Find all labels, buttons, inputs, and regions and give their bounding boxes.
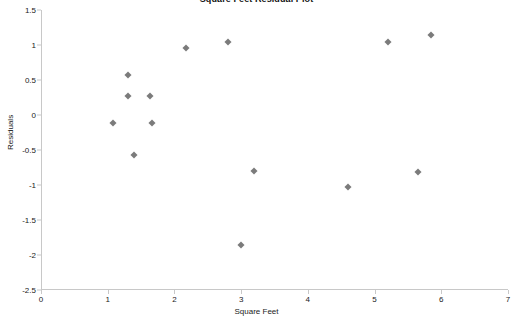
y-tick-label: -1.5 [22,216,36,225]
data-point [224,38,231,45]
y-tick-mark [37,150,41,151]
x-tick-label: 5 [372,295,376,304]
x-tick-label: 2 [172,295,176,304]
y-axis-line [41,10,42,290]
data-point [183,44,190,51]
x-tick-mark [174,290,175,294]
y-tick-label: 1.5 [25,6,36,15]
y-tick-mark [37,220,41,221]
data-point [124,93,131,100]
x-tick-mark [508,290,509,294]
y-tick-label: -2 [29,251,36,260]
data-point [124,72,131,79]
data-point [384,38,391,45]
y-axis-title: Residuals [6,115,15,150]
data-point [146,93,153,100]
y-tick-mark [37,45,41,46]
y-tick-mark [37,115,41,116]
x-tick-label: 4 [306,295,310,304]
data-point [238,241,245,248]
x-axis-title: Square Feet [0,307,513,316]
data-point [110,119,117,126]
data-point [149,119,156,126]
y-tick-mark [37,80,41,81]
y-tick-label: -1 [29,181,36,190]
x-tick-label: 6 [439,295,443,304]
x-tick-mark [441,290,442,294]
y-tick-label: 1 [32,41,36,50]
data-point [414,169,421,176]
x-tick-label: 7 [506,295,510,304]
y-tick-mark [37,185,41,186]
residual-plot-chart: Square Feet Residual Plot 1.510.50-0.5-1… [0,0,513,321]
plot-area: 1.510.50-0.5-1-1.5-2-2.5 01234567 [41,10,508,290]
x-tick-label: 3 [239,295,243,304]
x-tick-mark [241,290,242,294]
y-tick-label: -0.5 [22,146,36,155]
x-tick-mark [375,290,376,294]
data-point [131,151,138,158]
y-tick-label: -2.5 [22,286,36,295]
y-tick-mark [37,255,41,256]
x-tick-label: 1 [105,295,109,304]
data-point [251,167,258,174]
y-tick-label: 0.5 [25,76,36,85]
y-tick-mark [37,10,41,11]
x-tick-mark [41,290,42,294]
data-point [428,31,435,38]
x-axis-line [41,289,508,290]
data-point [344,184,351,191]
chart-title: Square Feet Residual Plot [0,0,513,5]
y-tick-label: 0 [32,111,36,120]
x-tick-mark [308,290,309,294]
x-tick-label: 0 [39,295,43,304]
x-tick-mark [108,290,109,294]
